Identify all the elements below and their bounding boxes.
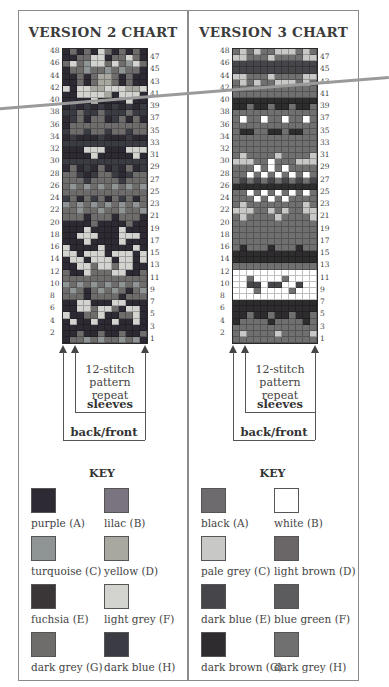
row-number-left: 32 [50, 145, 60, 153]
stitch-cell [261, 337, 268, 343]
stitch-cell [84, 337, 91, 343]
row-number-right: 37 [320, 114, 330, 122]
row-number-right: 29 [150, 163, 160, 171]
key-label: light brown (D) [274, 565, 356, 577]
stitch-cell [296, 337, 303, 343]
row-number-left: 48 [50, 47, 60, 55]
row-number-left: 38 [220, 108, 230, 116]
row-number-right: 33 [150, 139, 160, 147]
row-number-right: 33 [320, 139, 330, 147]
row-number-left: 44 [220, 72, 230, 80]
row-number-right: 47 [320, 53, 330, 61]
key-swatch [201, 536, 226, 561]
stitch-cell [105, 337, 112, 343]
row-number-right: 45 [150, 65, 160, 73]
row-number-left: 40 [220, 96, 230, 104]
row-number-left: 8 [50, 292, 55, 300]
stitch-cell [133, 337, 140, 343]
key-swatch [104, 584, 129, 609]
row-number-left: 4 [50, 317, 55, 325]
row-number-right: 5 [150, 310, 155, 318]
row-number-left: 20 [50, 219, 60, 227]
key-label: yellow (D) [104, 565, 158, 577]
key-swatch [31, 536, 56, 561]
sleeves-label: sleeves [245, 398, 315, 411]
key-label: light grey (F) [104, 613, 174, 625]
key-swatch [104, 536, 129, 561]
row-number-right: 31 [320, 151, 330, 159]
row-number-right: 27 [150, 176, 160, 184]
stitch-cell [119, 337, 126, 343]
stitch-cell [112, 337, 119, 343]
row-number-right: 47 [150, 53, 160, 61]
row-number-right: 25 [320, 188, 330, 196]
row-number-right: 23 [320, 200, 330, 208]
row-number-left: 8 [220, 292, 225, 300]
key-swatch [274, 584, 299, 609]
chart-title: VERSION 2 CHART [19, 24, 187, 40]
row-number-right: 3 [150, 323, 155, 331]
key-label: dark brown (G) [201, 661, 282, 673]
key-label: blue green (F) [274, 613, 350, 625]
row-number-left: 36 [50, 121, 60, 129]
row-number-right: 29 [320, 163, 330, 171]
stitch-cell [91, 337, 98, 343]
row-number-right: 35 [150, 127, 160, 135]
key-swatch [31, 584, 56, 609]
row-number-left: 10 [220, 280, 230, 288]
key-label: black (A) [201, 517, 249, 529]
row-number-right: 7 [320, 298, 325, 306]
key-label: purple (A) [31, 517, 85, 529]
chart-title: VERSION 3 CHART [189, 24, 358, 40]
row-number-left: 14 [50, 255, 60, 263]
row-number-right: 1 [320, 335, 325, 343]
repeat-line [145, 352, 146, 440]
row-number-right: 15 [150, 249, 160, 257]
key-swatch [201, 584, 226, 609]
row-number-left: 16 [220, 243, 230, 251]
stitch-cell [98, 337, 105, 343]
backfront-label: back/front [63, 426, 145, 439]
row-number-right: 39 [150, 102, 160, 110]
stitch-cell [254, 337, 261, 343]
row-number-right: 39 [320, 102, 330, 110]
row-number-left: 6 [220, 304, 225, 312]
row-number-right: 43 [150, 78, 160, 86]
row-number-left: 24 [220, 194, 230, 202]
row-number-right: 13 [320, 261, 330, 269]
backfront-bottom-line [233, 440, 315, 441]
row-number-right: 7 [150, 298, 155, 306]
row-number-left: 44 [50, 72, 60, 80]
repeat-line [315, 352, 316, 440]
row-number-right: 11 [320, 274, 330, 282]
row-number-left: 48 [220, 47, 230, 55]
row-number-left: 34 [50, 133, 60, 141]
row-number-left: 32 [220, 145, 230, 153]
key-label: fuchsia (E) [31, 613, 89, 625]
row-number-left: 28 [220, 170, 230, 178]
key-label: dark grey (G) [31, 661, 103, 673]
row-number-left: 2 [220, 329, 225, 337]
key-label: dark grey (H) [274, 661, 346, 673]
key-swatch [201, 488, 226, 513]
stitch-grid [232, 48, 318, 344]
key-title: KEY [188, 467, 357, 480]
row-number-right: 9 [150, 286, 155, 294]
row-number-left: 4 [220, 317, 225, 325]
row-number-left: 10 [50, 280, 60, 288]
row-number-left: 12 [50, 268, 60, 276]
row-number-left: 18 [220, 231, 230, 239]
key-swatch [201, 632, 226, 657]
row-number-right: 27 [320, 176, 330, 184]
row-number-right: 5 [320, 310, 325, 318]
row-number-left: 26 [220, 182, 230, 190]
row-number-right: 21 [320, 212, 330, 220]
row-number-left: 30 [50, 157, 60, 165]
stitch-cell [126, 337, 133, 343]
row-number-left: 14 [220, 255, 230, 263]
key-label: dark blue (E) [201, 613, 271, 625]
row-number-left: 26 [50, 182, 60, 190]
row-number-right: 9 [320, 286, 325, 294]
key-swatch [104, 488, 129, 513]
row-number-left: 28 [50, 170, 60, 178]
